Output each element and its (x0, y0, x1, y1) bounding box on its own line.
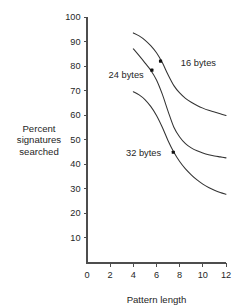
y-tick-label: 20 (70, 208, 80, 218)
x-tick-label: 6 (154, 270, 159, 280)
y-tick-label: 10 (70, 233, 80, 243)
y-tick-label: 70 (70, 86, 80, 96)
ticks-group (84, 17, 227, 267)
y-tick-label: 90 (70, 37, 80, 47)
y-tick-label: 100 (65, 12, 80, 22)
chart-plot-area: 102030405060708090100024681012 16 bytes2… (0, 0, 242, 308)
series-marker-0 (159, 60, 162, 63)
series-curve-0 (133, 33, 226, 116)
y-tick-label: 50 (70, 135, 80, 145)
series-label-2: 32 bytes (126, 148, 161, 158)
series-markers-group (150, 60, 175, 154)
chart-figure: 102030405060708090100024681012 16 bytes2… (0, 0, 242, 308)
x-tick-label: 12 (221, 270, 231, 280)
x-tick-label: 2 (108, 270, 113, 280)
series-labels-group: 16 bytes24 bytes32 bytes (109, 58, 217, 159)
x-tick-label: 4 (131, 270, 136, 280)
series-curve-2 (133, 92, 226, 194)
x-axis-title: Pattern length (127, 294, 187, 305)
x-tick-label: 10 (198, 270, 208, 280)
axis-lines (87, 17, 226, 263)
y-tick-label: 60 (70, 110, 80, 120)
x-tick-label: 0 (84, 270, 89, 280)
axes-group (87, 17, 226, 263)
tick-labels-group: 102030405060708090100024681012 (65, 12, 231, 280)
x-tick-label: 8 (177, 270, 182, 280)
y-tick-label: 80 (70, 61, 80, 71)
series-label-1: 24 bytes (109, 70, 144, 80)
y-tick-label: 40 (70, 159, 80, 169)
series-label-0: 16 bytes (181, 58, 216, 68)
y-tick-label: 30 (70, 184, 80, 194)
series-marker-2 (172, 151, 175, 154)
series-marker-1 (150, 69, 153, 72)
